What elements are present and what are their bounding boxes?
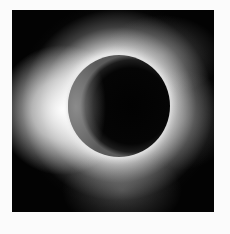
eclipse-photo [12, 10, 214, 212]
moon-limb-glow [68, 55, 170, 157]
